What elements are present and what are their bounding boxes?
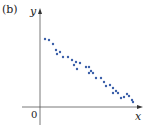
origin-label: 0	[31, 109, 37, 120]
data-point	[85, 66, 87, 68]
x-axis-label: x	[135, 110, 142, 123]
data-point	[109, 84, 111, 86]
scatter-plot: (b) y x 0	[0, 0, 144, 128]
data-point	[62, 56, 64, 58]
data-point	[112, 92, 114, 94]
data-point	[88, 66, 90, 68]
data-point	[126, 93, 128, 95]
y-axis-arrow-icon	[38, 8, 42, 14]
data-point	[132, 101, 134, 103]
data-point	[55, 49, 57, 51]
data-point	[76, 68, 78, 70]
data-point	[120, 97, 122, 99]
y-axis-label: y	[29, 5, 37, 18]
data-point	[71, 59, 73, 61]
data-point	[79, 62, 81, 64]
data-point	[105, 85, 107, 87]
data-point	[48, 39, 50, 41]
data-point	[56, 53, 58, 55]
data-point	[100, 77, 102, 79]
panel-label: (b)	[2, 3, 18, 16]
data-point	[52, 43, 54, 45]
data-point	[112, 87, 114, 89]
data-point	[117, 92, 119, 94]
data-points	[44, 38, 134, 103]
data-point	[88, 72, 90, 74]
x-axis-arrow-icon	[137, 105, 143, 109]
data-point	[95, 77, 97, 79]
data-point	[44, 38, 46, 40]
data-point	[115, 90, 117, 92]
data-point	[59, 51, 61, 53]
data-point	[75, 61, 77, 63]
data-point	[123, 96, 125, 98]
data-point	[67, 56, 69, 58]
data-point	[73, 64, 75, 66]
data-point	[103, 81, 105, 83]
data-point	[128, 95, 130, 97]
data-point	[90, 70, 92, 72]
data-point	[92, 72, 94, 74]
